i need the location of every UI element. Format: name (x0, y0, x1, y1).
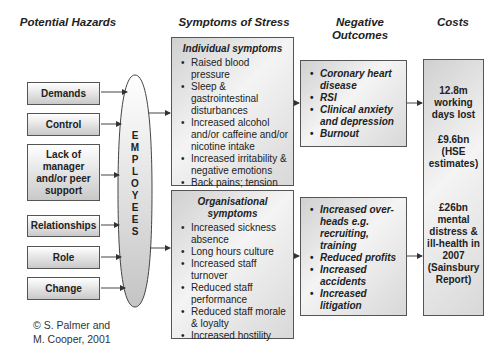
hazard-control: Control (27, 113, 100, 136)
list-item: Reduced staff performance (191, 282, 290, 306)
cost-hse-estimate: £9.6bn (HSE estimates) (426, 134, 481, 170)
employees-letter: L (129, 166, 141, 178)
list-item: Raised blood pressure (191, 57, 290, 81)
employees-label: E M P L O Y E E S (129, 130, 141, 238)
individual-symptoms-title: Individual symptoms (175, 43, 290, 55)
list-item: Long hours culture (191, 246, 290, 258)
employees-letter: Y (129, 190, 141, 202)
list-item: RSI (320, 92, 404, 104)
list-item: Sleep & gastrointestinal disturbances (191, 81, 290, 117)
employees-letter: S (129, 226, 141, 238)
organisational-symptoms-title: Organisational symptoms (175, 196, 290, 220)
outcomes-individual-list: Coronary heart disease RSI Clinical anxi… (304, 68, 404, 140)
individual-symptoms-box: Individual symptoms Raised blood pressur… (171, 37, 294, 186)
hazard-demands: Demands (27, 82, 100, 105)
list-item: Increased litigation (320, 288, 404, 312)
outcomes-organisational-box: Increased over-heads e.g. recruiting, tr… (300, 197, 407, 316)
credit-line2: M. Cooper, 2001 (33, 332, 111, 346)
organisational-symptoms-list: Increased sickness absence Long hours cu… (175, 222, 290, 342)
list-item: Increased hostility (191, 330, 290, 342)
list-item: Increased irritability & negative emotio… (191, 153, 290, 177)
outcomes-organisational-list: Increased over-heads e.g. recruiting, tr… (304, 204, 404, 312)
list-item: Increased over-heads e.g. recruiting, tr… (320, 204, 404, 252)
list-item: Burnout (320, 128, 404, 140)
hazard-relationships: Relationships (27, 215, 100, 237)
cost-working-days: 12.8m working days lost (428, 85, 479, 121)
hazard-role: Role (27, 246, 100, 269)
employees-letter: O (129, 178, 141, 190)
hazard-change: Change (27, 277, 100, 300)
copyright-credit: © S. Palmer and M. Cooper, 2001 (33, 318, 111, 346)
list-item: Increased alcohol and/or caffeine and/or… (191, 117, 290, 153)
organisational-symptoms-box: Organisational symptoms Increased sickne… (171, 190, 294, 339)
cost-sainsbury: £26bn mental distress & ill-health in 20… (425, 202, 482, 286)
employees-letter: M (129, 142, 141, 154)
employees-letter: E (129, 130, 141, 142)
list-item: Increased sickness absence (191, 222, 290, 246)
list-item: Clinical anxiety and depression (320, 104, 404, 128)
list-item: Increased staff turnover (191, 258, 290, 282)
employees-letter: P (129, 154, 141, 166)
list-item: Reduced staff morale & loyalty (191, 306, 290, 330)
costs-box: 12.8m working days lost £9.6bn (HSE esti… (423, 59, 484, 316)
hazard-lack-of-support: Lack of manager and/or peer support (27, 144, 100, 201)
outcomes-individual-box: Coronary heart disease RSI Clinical anxi… (300, 60, 407, 147)
list-item: Coronary heart disease (320, 68, 404, 92)
employees-letter: E (129, 214, 141, 226)
employees-letter: E (129, 202, 141, 214)
list-item: Increased accidents (320, 264, 404, 288)
credit-line1: © S. Palmer and (33, 318, 111, 332)
list-item: Reduced profits (320, 252, 404, 264)
list-item: Back pains; tension (191, 177, 290, 189)
